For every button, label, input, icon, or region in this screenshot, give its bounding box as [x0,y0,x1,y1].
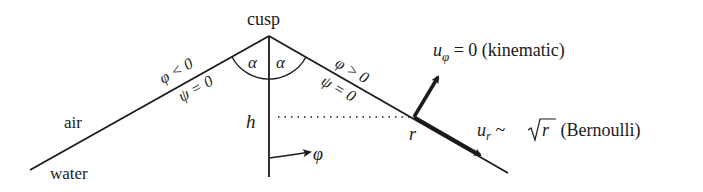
air-label: air [64,113,82,132]
bernoulli-text: (Bernoulli) [556,120,640,141]
u-r-velocity-arrow [414,117,480,155]
cusp-label: cusp [247,9,280,29]
u-phi-kinematic-label: uφ = 0 (kinematic) [433,40,565,64]
r-label: r [409,124,417,144]
free-surface-left [30,36,269,170]
u-phi-velocity-arrow [414,77,438,117]
water-label: water [50,164,88,183]
varphi-direction-arrow [269,152,310,158]
varphi-label: φ [313,144,323,164]
cusp-flow-diagram: cusp air water α α φ < 0 ψ = 0 φ > 0 ψ =… [0,0,703,192]
u-r-bernoulli-label: ur ~ [477,120,506,143]
alpha-right-label: α [276,53,286,72]
sqrt-argument: r [542,120,550,140]
alpha-left-label: α [248,53,258,72]
h-label: h [246,111,256,132]
